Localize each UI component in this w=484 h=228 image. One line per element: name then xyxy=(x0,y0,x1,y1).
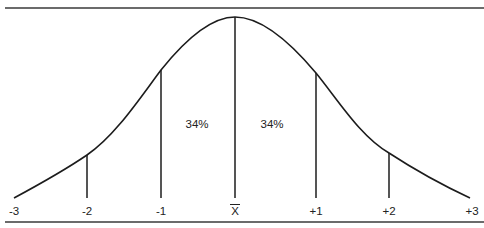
axis-label-plus-2: +2 xyxy=(382,205,395,217)
axis-label-mean: X xyxy=(231,205,239,217)
axis-label-minus-3: -3 xyxy=(9,205,19,217)
axis-label-plus-1: +1 xyxy=(309,205,322,217)
region-label-right: 34% xyxy=(260,118,283,130)
axis-label-minus-1: -1 xyxy=(156,205,166,217)
axis-label-minus-2: -2 xyxy=(82,205,92,217)
normal-distribution-diagram: 34% 34% -3 -2 -1 X +1 +2 +3 xyxy=(0,0,484,228)
bell-curve xyxy=(14,17,470,198)
axis-label-plus-3: +3 xyxy=(465,205,478,217)
region-label-left: 34% xyxy=(185,118,208,130)
